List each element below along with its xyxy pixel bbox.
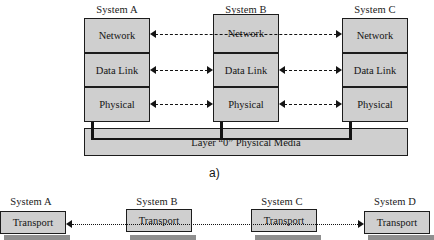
arrowhead-right [336,30,342,38]
system-a-layer-data-link: Data Link [84,53,150,87]
layer-label: Network [99,30,136,41]
dashed-line [155,70,208,71]
system-a-media-connector-horizontal [91,138,221,141]
peer-link-datalink-b-c [279,70,342,71]
system-a-layer-network: Network [84,18,150,53]
transport-d-shadow [368,235,434,240]
system-c-layer-transport: Transport [251,209,317,232]
system-b-layer-physical: Physical [213,87,279,122]
layer-label: Transport [13,217,53,228]
arrowhead-right [207,66,213,74]
layer-label: Physical [99,99,135,110]
arrowhead-right [358,220,364,228]
system-a-title: System A [84,4,150,15]
arrowhead-right [207,100,213,108]
system-b-layer-data-link: Data Link [213,53,279,87]
peer-link-physical-a-b [150,104,213,105]
layer-label: Data Link [225,65,267,76]
transport-a-shadow [4,235,70,240]
peer-link-physical-b-c [279,104,342,105]
peer-link-transport-a-d [66,224,364,225]
system-a-layer-physical: Physical [84,87,150,122]
arrowhead-right [336,66,342,74]
layer-label: Physical [228,99,264,110]
dashed-line [155,34,337,35]
peer-link-datalink-a-b [150,70,213,71]
physical-media-bar: Layer “0” Physical Media [84,128,408,156]
transport-b-shadow [130,235,196,240]
system-b-title-part-b: System B [124,196,190,207]
layer-label: Data Link [96,65,138,76]
system-c-layer-network: Network [342,18,408,53]
system-c-title: System C [342,4,408,15]
peer-link-network-a-c [150,34,342,35]
figure-caption-a: a) [209,166,220,180]
layer-label: Data Link [354,65,396,76]
layer-label: Network [357,30,394,41]
dashed-line [155,104,208,105]
system-d-title-part-b: System D [362,196,428,207]
dashed-line [284,104,337,105]
system-b-layer-transport: Transport [126,209,192,232]
dashed-line [284,70,337,71]
system-c-layer-physical: Physical [342,87,408,122]
system-a-title-part-b: System A [0,196,64,207]
dotted-line [72,224,358,225]
layer-label: Transport [377,217,417,228]
system-a-layer-transport: Transport [0,211,66,234]
arrowhead-right [336,100,342,108]
system-c-title-part-b: System C [249,196,315,207]
system-c-layer-data-link: Data Link [342,53,408,87]
system-d-layer-transport: Transport [364,211,430,234]
transport-c-shadow [255,235,321,240]
layer-label: Physical [357,99,393,110]
system-b-media-connector-horizontal [220,138,350,141]
